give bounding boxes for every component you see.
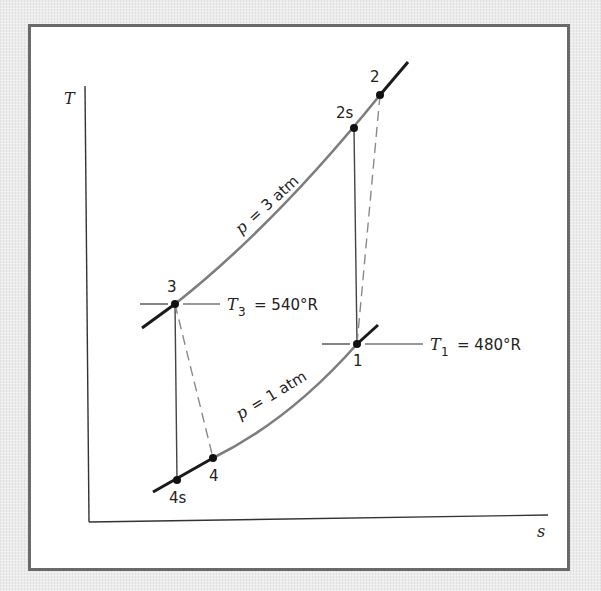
process-1-2s [354, 128, 357, 344]
state-point-2 [376, 91, 384, 99]
isobar-low-eq: = [247, 393, 267, 415]
isobar-high-black-left [142, 304, 175, 328]
x-axis-label: s [537, 522, 545, 541]
state-point-1 [353, 340, 361, 348]
process-1-2-dashed [357, 95, 380, 344]
isobar-low-gray [213, 344, 357, 458]
isobar-high-eq: = [244, 205, 265, 227]
t1-value: = 480°R [457, 336, 521, 354]
process-3-4s [175, 304, 177, 480]
state-label-1: 1 [353, 352, 363, 370]
t1-annotation: T 1 = 480°R [430, 335, 521, 359]
isobar-low-black-left [153, 458, 213, 492]
state-label-3: 3 [167, 278, 177, 296]
ts-diagram: T s 1 2 2s 3 4 4s T 3 = 540°R T 1 = 480°… [0, 0, 601, 591]
state-label-4: 4 [209, 467, 219, 485]
isobar-low-p: p [232, 402, 251, 424]
t3-value: = 540°R [254, 296, 318, 314]
state-label-2: 2 [370, 68, 380, 86]
t3-subscript: 3 [238, 305, 246, 319]
isobar-high-label: p = 3 atm [231, 171, 302, 238]
state-label-2s: 2s [336, 104, 354, 122]
state-point-4 [209, 454, 217, 462]
t3-annotation: T 3 = 540°R [227, 295, 318, 319]
y-axis-label: T [64, 89, 76, 108]
y-axis [85, 86, 89, 522]
state-point-3 [171, 300, 179, 308]
isobar-high-p: p [231, 217, 251, 238]
state-point-2s [350, 124, 358, 132]
isobar-low-value: 1 atm [263, 367, 310, 405]
x-axis [89, 515, 548, 522]
t1-subscript: 1 [441, 345, 449, 359]
isobar-high-black-right [380, 62, 408, 95]
isobar-low-black-right [357, 325, 378, 344]
process-3-4-dashed [175, 304, 213, 458]
isobar-low-label: p = 1 atm [232, 366, 310, 423]
state-label-4s: 4s [169, 489, 187, 507]
state-point-4s [173, 476, 181, 484]
